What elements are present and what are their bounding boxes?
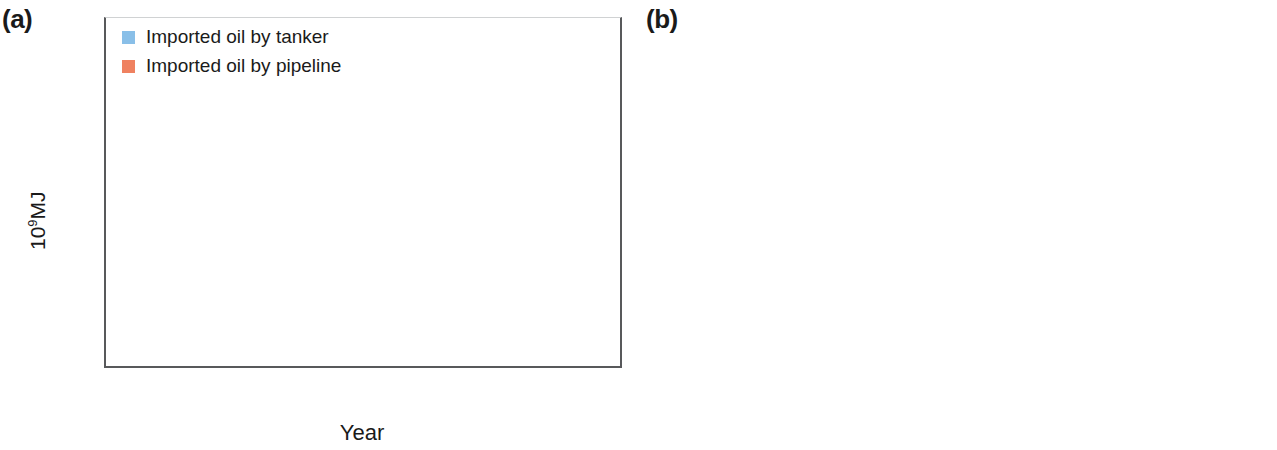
panel-b: (b) 109MJ Year LNG importsPipeline-gas i… xyxy=(637,0,1277,450)
panel-a-x-axis-title: Year xyxy=(104,420,620,446)
panel-a-legend-label: Imported oil by tanker xyxy=(146,26,329,48)
figure-container: (a) 109MJ Year Imported oil by tankerImp… xyxy=(0,0,1277,450)
panel-a-legend-item: Imported oil by tanker xyxy=(122,26,341,48)
panel-a-legend: Imported oil by tankerImported oil by pi… xyxy=(122,26,341,84)
panel-a-y-axis-title-exponent: 9 xyxy=(25,219,40,226)
panel-a: (a) 109MJ Year Imported oil by tankerImp… xyxy=(0,0,640,450)
legend-swatch-icon xyxy=(122,60,135,73)
panel-a-legend-label: Imported oil by pipeline xyxy=(146,55,341,77)
panel-b-tag: (b) xyxy=(646,6,678,32)
panel-a-y-axis-title: 109MJ xyxy=(26,191,50,250)
panel-a-y-axis-title-base: 10 xyxy=(26,227,49,250)
panel-a-tag: (a) xyxy=(2,6,32,32)
panel-a-y-axis-title-unit: MJ xyxy=(26,191,49,219)
legend-swatch-icon xyxy=(122,31,135,44)
panel-a-legend-item: Imported oil by pipeline xyxy=(122,55,341,77)
